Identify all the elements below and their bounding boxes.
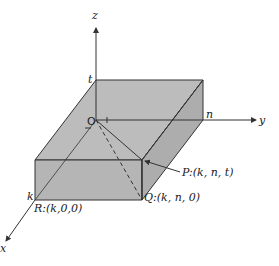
y-axis-label: y [258, 114, 266, 127]
k-label: k [27, 190, 34, 203]
z-axis-label: z [91, 9, 98, 22]
point-Q-label: Q:(k, n, 0) [144, 191, 200, 204]
origin-label: O [87, 115, 96, 128]
point-R-label: R:(k,0,0) [33, 202, 82, 215]
box-front-face [35, 160, 142, 200]
x-axis-label: x [0, 242, 7, 255]
x-axis [6, 200, 35, 241]
point-P-label: P:(k, n, t) [181, 166, 233, 179]
box-diagram: z y x O t n k P:(k, n, t) Q:(k, n, 0) R:… [0, 0, 279, 266]
t-label: t [88, 73, 93, 86]
n-label: n [206, 108, 213, 121]
